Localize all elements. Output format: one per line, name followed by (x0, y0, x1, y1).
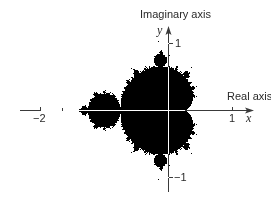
y-axis-title: Imaginary axis (140, 9, 211, 20)
y-axis (166, 26, 174, 192)
y-tick-label-neg1: −1 (174, 172, 187, 183)
mandelbrot-figure: Imaginary axis y 1 −1 Real axis −2 1 x (0, 0, 271, 199)
y-variable-label: y (157, 24, 162, 36)
x-axis (20, 107, 254, 114)
x-variable-label: x (246, 112, 251, 124)
x-axis-title: Real axis (227, 91, 271, 102)
x-tick-label-1: 1 (229, 113, 235, 124)
x-tick-label-neg2: −2 (33, 113, 46, 124)
y-tick-label-1: 1 (175, 38, 181, 49)
